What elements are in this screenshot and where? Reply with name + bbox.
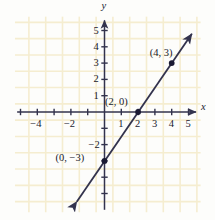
y-tick-label: −2 [89,140,100,151]
x-tick-label: 4 [169,119,174,130]
x-tick-label: −4 [30,119,41,130]
x-tick-label: −2 [64,119,75,130]
x-axis-label: x [201,102,206,113]
point-label: (0, −3) [56,153,85,164]
point-label: (2, 0) [105,97,128,108]
x-tick-label: 1 [118,119,123,130]
grid-lines [15,17,201,213]
y-tick-label: 3 [94,58,99,69]
graph-figure: x y −4−212345 54321−2 (4, 3)(2, 0)(0, −3… [0,0,215,220]
coordinate-plane [0,0,215,220]
x-tick-label: 2 [135,119,140,130]
y-tick-label: 1 [94,91,99,102]
y-tick-label: 2 [94,74,99,85]
x-tick-label: 5 [186,119,191,130]
y-tick-label: 5 [94,26,99,37]
y-axis-label: y [102,1,107,12]
point-label: (4, 3) [150,48,173,59]
y-tick-label: 4 [94,42,99,53]
x-tick-label: 3 [152,119,157,130]
